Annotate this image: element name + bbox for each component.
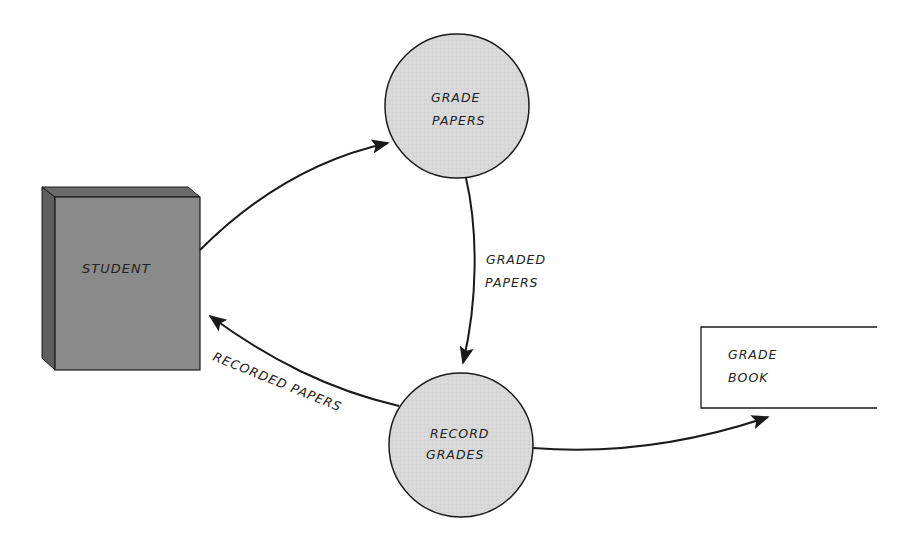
flow-record-grades-to-grade-book[interactable] <box>533 417 768 450</box>
process-grade-papers-circle <box>385 34 529 178</box>
process-grade-papers[interactable]: GRADE PAPERS <box>385 34 529 178</box>
flow-graded-papers-line1: GRADED <box>486 252 546 267</box>
process-record-grades[interactable]: RECORD GRADES <box>389 373 533 517</box>
data-store-grade-book-line1: GRADE <box>728 347 777 362</box>
student-entity-front <box>55 197 200 370</box>
process-record-grades-line1: RECORD <box>430 426 489 441</box>
flow-grade-papers-to-record-grades[interactable] <box>463 178 475 363</box>
data-store-grade-book-line2: BOOK <box>728 370 769 385</box>
process-grade-papers-line2: PAPERS <box>432 113 486 128</box>
data-store-grade-book-outline <box>701 327 877 408</box>
flow-student-to-grade-papers[interactable] <box>200 143 388 250</box>
student-entity-top <box>42 187 200 197</box>
process-record-grades-line2: GRADES <box>426 447 484 462</box>
data-store-grade-book[interactable]: GRADE BOOK <box>701 327 877 408</box>
flow-graded-papers-line2: PAPERS <box>485 275 539 290</box>
student-entity-side <box>42 187 55 370</box>
student-label: STUDENT <box>82 261 151 276</box>
student-entity[interactable]: STUDENT <box>42 187 200 370</box>
process-record-grades-circle <box>389 373 533 517</box>
process-grade-papers-line1: GRADE <box>431 90 480 105</box>
data-flow-diagram: STUDENT GRADE PAPERS RECORD GRADES GRADE… <box>0 0 913 544</box>
